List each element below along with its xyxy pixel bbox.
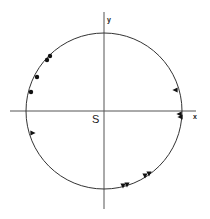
x-axis-label: x — [193, 113, 197, 120]
triangle-marker — [30, 130, 35, 135]
dot-marker — [48, 54, 52, 58]
y-axis-label: y — [107, 16, 111, 23]
dot-marker — [35, 75, 39, 79]
triangle-marker — [172, 87, 177, 92]
dot-marker — [29, 90, 33, 94]
stereonet-plot — [0, 0, 210, 219]
diagram-canvas: y x S — [0, 0, 210, 219]
dot-marker — [45, 58, 49, 62]
origin-label: S — [92, 114, 99, 125]
